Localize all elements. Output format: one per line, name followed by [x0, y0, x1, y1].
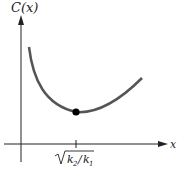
x-axis [4, 141, 168, 147]
cost-curve-diagram: C(x) x k 2 / k 1 [0, 0, 182, 171]
cost-curve [29, 47, 142, 112]
k1-sub: 1 [89, 160, 93, 168]
minimum-point [72, 108, 79, 115]
y-axis [18, 15, 24, 162]
y-axis-label: C(x) [11, 0, 38, 15]
x-axis-label: x [170, 138, 177, 151]
tick-label-sqrt: k 2 / k 1 [55, 151, 94, 168]
